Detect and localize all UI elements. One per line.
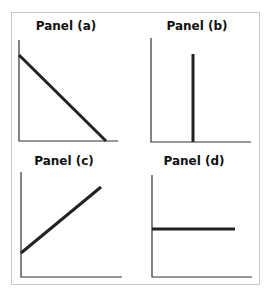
- panel-c-axes: [21, 172, 122, 277]
- panel-a: [19, 40, 118, 141]
- panel-d: [152, 175, 252, 277]
- panel-a-downward-line: [19, 55, 106, 141]
- panel-a-axes: [19, 40, 118, 141]
- panel-b-axes: [151, 38, 251, 142]
- panel-c: [21, 172, 122, 277]
- panel-c-upward-line: [21, 187, 101, 253]
- panel-b: [151, 38, 251, 142]
- panel-d-axes: [152, 175, 252, 277]
- plots-canvas: [0, 0, 269, 294]
